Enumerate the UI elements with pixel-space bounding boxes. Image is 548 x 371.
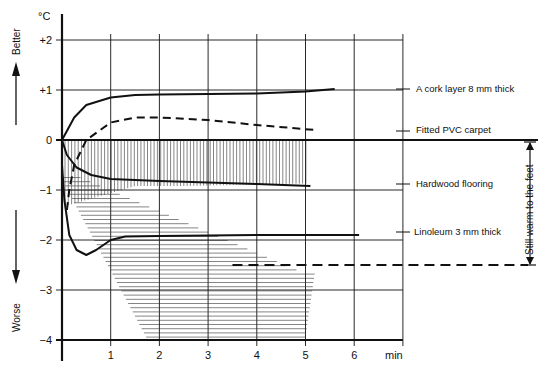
y-tick-label: −2	[39, 234, 52, 246]
x-tick-label: 4	[254, 349, 260, 361]
x-tick-label: 3	[205, 349, 211, 361]
x-tick-label: 6	[351, 349, 357, 361]
curves	[62, 89, 528, 265]
x-tick-label: 5	[302, 349, 308, 361]
worse-indicator: Worse	[11, 210, 22, 332]
x-axis-unit: min	[385, 349, 403, 361]
bracket-down-arrow-icon	[526, 257, 534, 265]
down-arrowhead-icon	[12, 270, 20, 284]
y-tick-label: +2	[39, 34, 52, 46]
warm-zone-bracket: Still warm to the feet	[524, 142, 536, 265]
label-cork: A cork layer 8 mm thick	[416, 83, 514, 94]
y-tick-label: −4	[39, 334, 52, 346]
hatched-areas	[63, 141, 315, 337]
up-arrowhead-icon	[12, 62, 20, 76]
better-indicator: Better	[11, 28, 22, 125]
x-tick-label: 2	[156, 349, 162, 361]
series-labels: A cork layer 8 mm thick Fitted PVC carpe…	[396, 83, 514, 237]
y-tick-label: −1	[39, 184, 52, 196]
series-fitted-pvc-carpet	[67, 118, 315, 211]
label-hardwood: Hardwood flooring	[416, 178, 493, 189]
y-axis-unit: °C	[38, 10, 50, 22]
temperature-chart: +2+10−1−2−3−4123456 °C min Better Worse …	[0, 0, 548, 371]
bracket-up-arrow-icon	[526, 142, 534, 150]
y-tick-label: −3	[39, 284, 52, 296]
warm-zone-label: Still warm to the feet	[524, 164, 535, 255]
y-tick-label: 0	[46, 134, 52, 146]
worse-label: Worse	[11, 303, 22, 332]
y-tick-label: +1	[39, 84, 52, 96]
better-label: Better	[11, 28, 22, 55]
series-a-cork-layer-8-mm-thick	[62, 89, 335, 140]
x-tick-label: 1	[108, 349, 114, 361]
label-linoleum: Linoleum 3 mm thick	[414, 226, 501, 237]
label-pvc: Fitted PVC carpet	[416, 124, 491, 135]
